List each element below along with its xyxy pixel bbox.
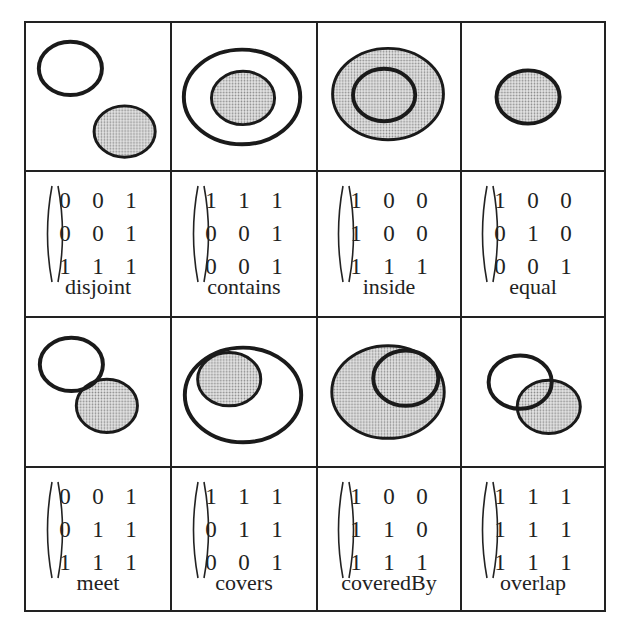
equal-illustration [462,23,604,170]
matrix-cell-contains: 111 001 001 contains [172,172,318,318]
intersection-matrix: 111 111 111 [491,480,575,579]
diagram-coveredBy [318,318,462,468]
coveredBy-illustration [318,318,460,466]
right-paren-icon [347,184,359,284]
disjoint-illustration [26,23,170,170]
left-paren-icon [477,184,489,284]
matrix-cell-coveredBy: 100 110 111 coveredBy [318,468,462,610]
intersection-matrix: 111 011 001 [202,480,286,579]
matrix-cell-covers: 111 011 001 covers [172,468,318,610]
diagram-equal [462,23,604,172]
left-paren-icon [333,480,345,580]
left-paren-icon [188,480,200,580]
left-paren-icon [42,184,54,284]
left-paren-icon [42,480,54,580]
contains-illustration [172,23,316,170]
inside-illustration [318,23,460,170]
matrix-cell-disjoint: 001 001 111 disjoint [26,172,172,318]
intersection-matrix: 001 011 111 [56,480,140,579]
diagram-covers [172,318,318,468]
left-paren-icon [333,184,345,284]
intersection-matrix: 100 010 001 [491,184,575,283]
diagram-contains [172,23,318,172]
right-paren-icon [491,184,503,284]
left-paren-icon [188,184,200,284]
diagram-inside [318,23,462,172]
diagram-meet [26,318,172,468]
matrix-cell-equal: 100 010 001 equal [462,172,604,318]
diagram-disjoint [26,23,172,172]
matrix-cell-meet: 001 011 111 meet [26,468,172,610]
intersection-matrix: 100 110 111 [347,480,431,579]
matrix-cell-overlap: 111 111 111 overlap [462,468,604,610]
intersection-matrix: 001 001 111 [56,184,140,283]
meet-illustration [26,318,170,466]
covers-illustration [172,318,316,466]
right-paren-icon [347,480,359,580]
right-paren-icon [491,480,503,580]
diagram-overlap [462,318,604,468]
matrix-cell-inside: 100 100 111 inside [318,172,462,318]
right-paren-icon [202,480,214,580]
left-paren-icon [477,480,489,580]
overlap-illustration [462,318,604,466]
right-paren-icon [56,480,68,580]
right-paren-icon [56,184,68,284]
intersection-matrix: 111 001 001 [202,184,286,283]
relations-grid: 001 001 111 disjoint 111 001 001 contain… [24,21,606,612]
right-paren-icon [202,184,214,284]
intersection-matrix: 100 100 111 [347,184,431,283]
